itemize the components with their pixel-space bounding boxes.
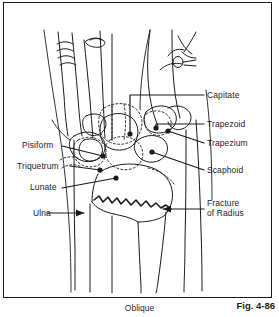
label-trapezium: Trapezium [207,138,248,148]
label-trapezoid: Trapezoid [207,119,245,129]
anatomy-figure: Capitate Trapezoid Trapezium Scaphoid Fr… [0,0,279,317]
label-capitate: Capitate [207,90,239,100]
label-triquetrum: Triquetrum [17,161,59,171]
label-fracture-line1: Fracture [207,198,239,208]
figure-border [3,2,272,298]
label-pisiform: Pisiform [22,140,54,150]
figure-number: Fig. 4-86 [236,300,275,311]
label-scaphoid: Scaphoid [207,165,243,175]
label-lunate: Lunate [30,182,57,192]
label-ulna: Ulna [33,208,51,218]
label-fracture-line2: of Radius [207,208,244,218]
label-fracture-of-radius: Fracture of Radius [207,198,267,218]
